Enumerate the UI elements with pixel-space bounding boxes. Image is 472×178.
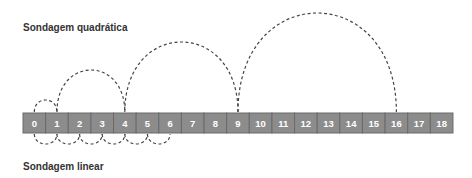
probing-diagram: Sondagem quadrática Sondagem linear 0123… (0, 0, 472, 178)
cell-index: 11 (278, 118, 289, 129)
cell-index: 5 (145, 118, 151, 129)
table-cell: 12 (295, 113, 318, 133)
table-cell: 8 (204, 113, 227, 133)
table-cell: 3 (91, 113, 114, 133)
cell-index: 6 (167, 118, 172, 129)
table-cell: 4 (114, 113, 137, 133)
cell-index: 7 (190, 118, 195, 129)
cell-index: 2 (77, 118, 82, 129)
table-cell: 13 (317, 113, 340, 133)
linear-probe-arc (80, 134, 103, 144)
table-cell: 1 (46, 113, 69, 133)
cell-index: 17 (414, 118, 425, 129)
cell-index: 3 (100, 118, 105, 129)
cell-index: 0 (32, 118, 37, 129)
linear-probe-arc (125, 134, 148, 144)
quadratic-probe-arc (238, 13, 396, 112)
table-cell: 10 (249, 113, 272, 133)
cell-index: 13 (323, 118, 334, 129)
table-cell: 5 (136, 113, 159, 133)
quadratic-probe-arc (57, 70, 125, 112)
cell-index: 8 (213, 118, 218, 129)
linear-probe-arc (147, 134, 170, 144)
table-cell: 15 (362, 113, 385, 133)
table-cell: 2 (68, 113, 91, 133)
table-cell: 6 (159, 113, 182, 133)
linear-probe-arc (102, 134, 125, 144)
table-cell: 18 (430, 113, 453, 133)
cell-index: 10 (255, 118, 266, 129)
cell-index: 18 (436, 118, 447, 129)
linear-probe-arc (57, 134, 80, 144)
table-cell: 14 (340, 113, 363, 133)
cell-index: 15 (368, 118, 379, 129)
cell-index: 1 (54, 118, 60, 129)
hash-table-diagram: 0123456789101112131415161718 (0, 0, 472, 178)
table-cell: 11 (272, 113, 295, 133)
cell-index: 14 (346, 118, 357, 129)
quadratic-probe-arc (125, 42, 238, 112)
cell-index: 4 (122, 118, 128, 129)
table-cell: 7 (181, 113, 204, 133)
quadratic-probe-arc (34, 100, 57, 112)
cell-index: 12 (301, 118, 312, 129)
table-cell: 17 (408, 113, 431, 133)
linear-probe-arc (34, 134, 57, 144)
table-cell: 9 (227, 113, 250, 133)
table-cell: 16 (385, 113, 408, 133)
cell-index: 16 (391, 118, 402, 129)
table-cell: 0 (23, 113, 46, 133)
cell-index: 9 (235, 118, 240, 129)
